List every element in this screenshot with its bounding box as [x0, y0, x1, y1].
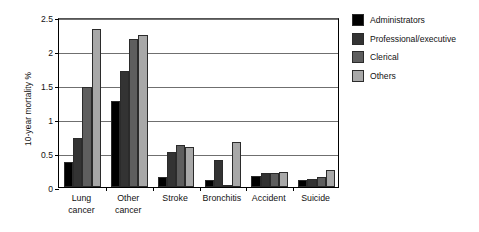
- y-axis-tick-label: 2: [48, 48, 53, 58]
- y-axis-tick-label: 1: [48, 116, 53, 126]
- bar: [317, 177, 326, 187]
- legend-item-label: Clerical: [370, 52, 399, 62]
- bar: [167, 152, 176, 187]
- bar: [158, 177, 167, 187]
- y-axis-title: 10-year mortality %: [23, 29, 33, 189]
- bar: [326, 170, 335, 187]
- y-axis-tick-label: 1.5: [41, 82, 53, 92]
- bar-group: [200, 19, 247, 187]
- x-axis-tick: [153, 187, 154, 191]
- bar: [73, 138, 82, 187]
- legend-item: Professional/executive: [352, 33, 456, 45]
- plot-area: 00.511.522.5: [58, 18, 339, 188]
- bar: [82, 87, 91, 187]
- legend-item: Administrators: [352, 14, 456, 26]
- legend-item: Clerical: [352, 51, 456, 63]
- bar: [111, 101, 120, 187]
- bar: [129, 39, 138, 187]
- x-axis-category-label: Other cancer: [105, 193, 152, 216]
- bar-group: [59, 19, 106, 187]
- x-axis-category-label: Suicide: [292, 193, 339, 205]
- x-axis-category-label: Bronchitis: [199, 193, 246, 205]
- bar: [120, 71, 129, 187]
- legend-swatch-icon: [352, 70, 364, 82]
- bar: [64, 162, 73, 187]
- legend-item: Others: [352, 70, 456, 82]
- legend-swatch-icon: [352, 14, 364, 26]
- bar-group: [153, 19, 200, 187]
- bar: [307, 179, 316, 187]
- x-axis-tick: [246, 187, 247, 191]
- bar: [214, 160, 223, 187]
- bar: [138, 35, 147, 187]
- legend-item-label: Administrators: [370, 15, 425, 25]
- bar-groups: [59, 19, 338, 187]
- bar: [251, 176, 260, 187]
- bar-group: [246, 19, 293, 187]
- bar-group: [106, 19, 153, 187]
- legend-swatch-icon: [352, 33, 364, 45]
- bar-chart: 10-year mortality % 00.511.522.5 Lung ca…: [0, 0, 479, 232]
- x-axis-tick: [106, 187, 107, 191]
- bar: [92, 29, 101, 187]
- y-axis-tick-label: 0: [48, 184, 53, 194]
- x-axis-tick: [293, 187, 294, 191]
- bar: [298, 180, 307, 187]
- bar: [232, 142, 241, 187]
- legend-item-label: Professional/executive: [370, 34, 456, 44]
- bar-group: [293, 19, 340, 187]
- legend-swatch-icon: [352, 51, 364, 63]
- legend-item-label: Others: [370, 71, 396, 81]
- bar: [261, 173, 270, 187]
- y-axis-tick-label: 0.5: [41, 150, 53, 160]
- x-axis-tick: [200, 187, 201, 191]
- y-axis-tick-label: 2.5: [41, 14, 53, 24]
- bar: [270, 173, 279, 187]
- bar: [185, 147, 194, 187]
- x-axis-category-label: Stroke: [152, 193, 199, 205]
- x-axis-category-label: Lung cancer: [58, 193, 105, 216]
- bar: [205, 180, 214, 187]
- bar: [279, 172, 288, 187]
- legend: AdministratorsProfessional/executiveCler…: [352, 14, 456, 82]
- y-axis-tick: [55, 189, 59, 190]
- bar: [176, 145, 185, 187]
- bar: [223, 185, 232, 187]
- x-axis-category-label: Accident: [245, 193, 292, 205]
